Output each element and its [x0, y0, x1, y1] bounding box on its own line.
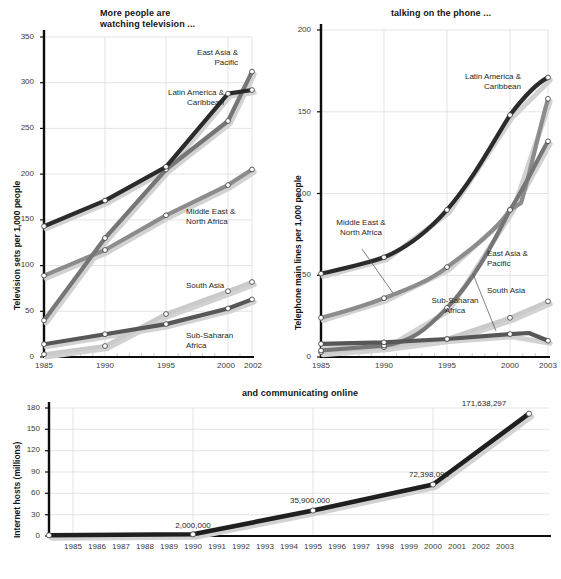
telephone-panel: talking on the phone ... Telephone main … [281, 0, 561, 390]
telephone-label-middle-east: Middle East & North Africa [321, 218, 401, 238]
television-label-sub-saharan: Sub-Saharan Africa [186, 331, 266, 351]
television-label-middle-east: Middle East & North Africa [186, 207, 266, 227]
internet-panel: and communicating online Internet hosts … [0, 388, 561, 579]
television-label-east-asia: East Asia & Pacific [170, 48, 238, 68]
telephone-label-latin-america: Latin America & Caribbean [436, 72, 521, 92]
internet-value-label-2003: 171,638,297 [434, 399, 534, 408]
internet-ytick-180: 180 [14, 404, 40, 412]
internet-ytick-30: 30 [14, 511, 40, 519]
telephone-plot [281, 0, 561, 390]
television-label-south-asia: South Asia [186, 281, 266, 291]
television-ytick-150: 150 [8, 215, 34, 223]
television-xtick-1985: 1985 [30, 362, 58, 370]
television-ytick-0: 0 [8, 353, 34, 361]
telephone-xtick-1990: 1990 [370, 362, 398, 370]
internet-ytick-60: 60 [14, 489, 40, 497]
telephone-ytick-150: 150 [285, 108, 311, 116]
television-panel: More people are watching television ... … [0, 0, 280, 390]
television-ytick-50: 50 [8, 307, 34, 315]
telephone-xtick-2000: 2000 [496, 362, 524, 370]
telephone-ytick-200: 200 [285, 26, 311, 34]
telephone-label-sub-saharan: Sub-Saharan Africa [423, 296, 487, 316]
internet-value-label-1990: 2,000,000 [155, 521, 231, 530]
internet-value-label-1995: 35,900,000 [265, 496, 355, 505]
internet-xtick-2003: 2003 [491, 543, 519, 551]
television-ytick-200: 200 [8, 170, 34, 178]
telephone-label-east-asia: East Asia & Pacific [487, 249, 557, 269]
television-ytick-250: 250 [8, 124, 34, 132]
internet-ytick-120: 120 [14, 446, 40, 454]
telephone-ytick-0: 0 [285, 353, 311, 361]
telephone-xtick-1995: 1995 [433, 362, 461, 370]
television-ytick-300: 300 [8, 78, 34, 86]
internet-ytick-90: 90 [14, 468, 40, 476]
television-xtick-1995: 1995 [152, 362, 180, 370]
television-ytick-100: 100 [8, 261, 34, 269]
television-xtick-2002: 2002 [239, 362, 267, 370]
telephone-xtick-2003: 2003 [534, 362, 561, 370]
telephone-series-latin-america [319, 75, 551, 276]
television-ytick-350: 350 [8, 33, 34, 41]
telephone-ytick-50: 50 [285, 271, 311, 279]
television-label-latin-america: Latin America & Caribbean [140, 88, 224, 108]
telephone-ytick-100: 100 [285, 190, 311, 198]
internet-value-label-2000: 72,398,092 [384, 470, 474, 479]
telephone-label-south-asia: South Asia [487, 286, 557, 296]
internet-ytick-150: 150 [14, 425, 40, 433]
television-xtick-1990: 1990 [91, 362, 119, 370]
television-xtick-2000: 2000 [212, 362, 240, 370]
internet-ytick-0: 0 [14, 532, 40, 540]
telephone-xtick-1985: 1985 [307, 362, 335, 370]
